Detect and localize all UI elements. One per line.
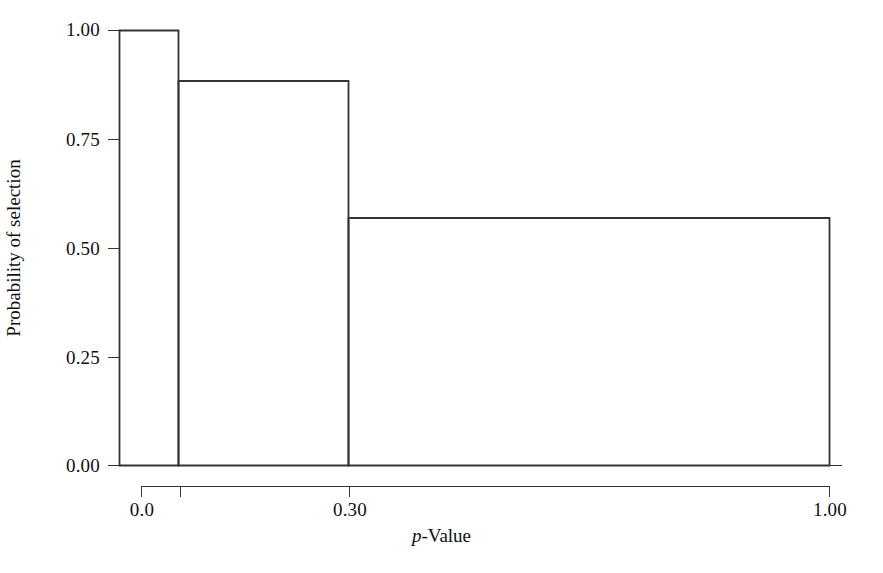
y-axis (108, 30, 120, 466)
x-tick-label-1-00: 1.00 (813, 499, 847, 521)
bar-bin-2 (179, 81, 349, 466)
y-tick-label-0-75: 0.75 (30, 129, 100, 151)
x-axis-title: p-Value (0, 525, 883, 547)
y-tick-label-0-00: 0.00 (30, 455, 100, 477)
y-tick-label-0-50: 0.50 (30, 238, 100, 260)
chart-plot-area (0, 0, 883, 573)
x-tick-label-0-30: 0.30 (333, 499, 367, 521)
x-tick-label-0-0: 0.0 (130, 499, 154, 521)
x-axis-title-rest: -Value (421, 525, 471, 546)
bar-bin-1 (120, 31, 179, 466)
x-axis (141, 487, 830, 498)
chart-container: 1.00 0.75 0.50 0.25 0.00 0.0 0.30 1.00 P… (0, 0, 883, 573)
histogram-bars (120, 31, 830, 466)
y-tick-label-0-25: 0.25 (30, 347, 100, 369)
y-axis-title: Probability of selection (3, 159, 25, 336)
bar-bin-3 (349, 218, 830, 466)
y-tick-label-1-00: 1.00 (30, 19, 100, 41)
